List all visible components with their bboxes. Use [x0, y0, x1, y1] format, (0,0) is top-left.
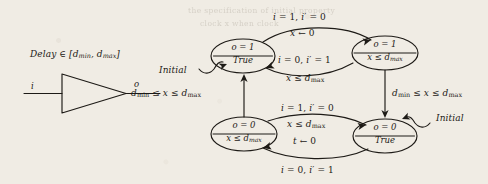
state-q1-invariant: True: [213, 56, 273, 65]
gate-input-label: i: [31, 82, 34, 91]
transition-label-top-return-action: x ≤ dmax: [286, 74, 324, 84]
figure-canvas: the specification of initial property cl…: [0, 0, 488, 184]
transition-label-bottom-action1: x ≤ dmax: [287, 120, 325, 130]
state-q2-invariant: x ≤ dmax: [354, 53, 416, 63]
transition-label-right-guard: dmin ≤ x ≤ dmax: [392, 89, 462, 99]
transition-arrow-right-vertical: [381, 70, 388, 118]
state-label-q4: o = 0 True: [355, 123, 415, 145]
transition-label-bottom-action2: t ← 0: [293, 137, 316, 146]
gate-caption: Delay ∈ [dmin, dmax]: [30, 50, 120, 60]
state-q1-output: o = 1: [213, 43, 273, 52]
transition-label-top-action: x ← 0: [290, 29, 315, 38]
transition-arrow-left-vertical: [240, 74, 247, 117]
state-label-q1: o = 1 True: [213, 43, 273, 65]
transition-label-bottom-return-guard: i = 0, i′ = 1: [281, 166, 334, 175]
state-q2-output: o = 1: [354, 40, 416, 49]
state-label-q2: o = 1 x ≤ dmax: [354, 40, 416, 63]
initial-label-left: Initial: [159, 66, 187, 75]
transition-label-left-guard: dmin ≤ x ≤ dmax: [131, 89, 201, 99]
transition-label-top-return-guard: i = 0, i′ = 1: [278, 56, 331, 65]
state-label-q3: o = 0 x ≤ dmax: [213, 121, 275, 144]
state-q4-output: o = 0: [355, 123, 415, 132]
transition-label-bottom-guard: i = 1, i′ = 0: [281, 104, 334, 113]
transition-label-top-guard: i = 1, i′ = 0: [273, 13, 326, 22]
state-q4-invariant: True: [355, 136, 415, 145]
state-q3-output: o = 0: [213, 121, 275, 130]
state-q3-invariant: x ≤ dmax: [213, 134, 275, 144]
initial-label-right: Initial: [436, 114, 464, 123]
